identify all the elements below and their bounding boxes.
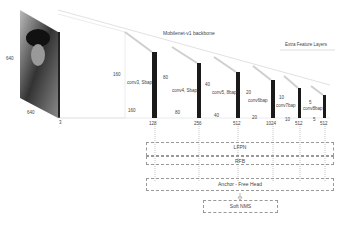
stage6-h: 5: [309, 100, 312, 105]
rfb-label: RFB: [146, 158, 334, 164]
stage2-h: 80: [163, 75, 168, 80]
stage6-c: 512: [320, 121, 328, 126]
stage4-h: 20: [246, 90, 251, 95]
stage4-w: 20: [252, 115, 257, 120]
stage2-w: 80: [175, 110, 180, 115]
input-width: 640: [27, 110, 35, 115]
stage6-w: 5: [313, 117, 316, 122]
stage3-w: 40: [214, 113, 219, 118]
stage1-h: 160: [113, 72, 121, 77]
backbone-title: Mobilenet-v1 backbone: [163, 30, 215, 36]
stage2-c: 256: [194, 121, 202, 126]
input-channels: 3: [59, 120, 62, 125]
stage2-conv: conv4, Sbap: [172, 88, 197, 93]
lfpn-label: LFPN: [146, 144, 334, 150]
stage3-h: 40: [205, 82, 210, 87]
extra-title: Extra Feature Layers: [285, 42, 327, 47]
stage5-c: 512: [295, 121, 303, 126]
head-label: Anchor - Free Head: [146, 181, 334, 187]
stage5-conv: conv7bap: [276, 103, 296, 108]
stage6-conv: conv8bap: [303, 106, 323, 111]
stage3-conv: conv5, 8bap: [212, 90, 237, 95]
stage3-c: 512: [233, 121, 241, 126]
stage4-c: 1024: [266, 121, 276, 126]
stage5-w: 10: [285, 117, 290, 122]
input-height: 640: [6, 56, 14, 61]
stage1-conv: conv3, Sbap: [127, 80, 152, 85]
stage1-c: 128: [149, 121, 157, 126]
nms-label: Soft NMS: [203, 203, 278, 209]
stage5-h: 10: [279, 95, 284, 100]
stage1-w: 160: [128, 108, 136, 113]
stage4-conv: conv6bap: [248, 98, 268, 103]
